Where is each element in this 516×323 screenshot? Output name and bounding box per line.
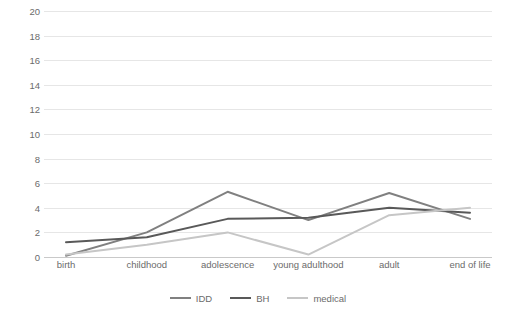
legend-item[interactable]: medical bbox=[287, 293, 346, 304]
y-tick-label: 0 bbox=[0, 252, 40, 263]
y-tick-label: 20 bbox=[0, 6, 40, 17]
x-tick-label: childhood bbox=[126, 259, 167, 270]
legend-line-icon bbox=[170, 297, 191, 300]
x-tick-label: adult bbox=[379, 259, 400, 270]
y-axis-tick-labels: 02468101214161820 bbox=[0, 11, 40, 257]
y-tick-label: 16 bbox=[0, 55, 40, 66]
y-tick-label: 10 bbox=[0, 129, 40, 140]
y-tick-label: 14 bbox=[0, 79, 40, 90]
line-chart: 02468101214161820 birthchildhoodadolesce… bbox=[0, 0, 516, 323]
x-tick-label: end of life bbox=[449, 259, 490, 270]
legend-label: IDD bbox=[196, 293, 212, 304]
y-tick-label: 2 bbox=[0, 227, 40, 238]
y-tick-label: 18 bbox=[0, 30, 40, 41]
legend-line-icon bbox=[287, 297, 308, 300]
y-tick-label: 8 bbox=[0, 153, 40, 164]
x-tick-label: adolescence bbox=[201, 259, 254, 270]
x-axis-tick-labels: birthchildhoodadolescenceyoung adulthood… bbox=[44, 259, 492, 277]
y-tick-label: 12 bbox=[0, 104, 40, 115]
x-axis-line bbox=[44, 257, 492, 258]
y-tick-label: 6 bbox=[0, 178, 40, 189]
legend-label: BH bbox=[256, 293, 269, 304]
y-tick-label: 4 bbox=[0, 202, 40, 213]
legend-item[interactable]: BH bbox=[230, 293, 269, 304]
plot-area bbox=[44, 11, 492, 257]
legend-label: medical bbox=[313, 293, 346, 304]
chart-legend: IDDBHmedical bbox=[0, 288, 516, 308]
legend-item[interactable]: IDD bbox=[170, 293, 212, 304]
series-line bbox=[66, 208, 470, 255]
x-tick-label: birth bbox=[57, 259, 75, 270]
legend-line-icon bbox=[230, 297, 251, 300]
x-tick-label: young adulthood bbox=[273, 259, 343, 270]
series-lines bbox=[44, 11, 492, 257]
